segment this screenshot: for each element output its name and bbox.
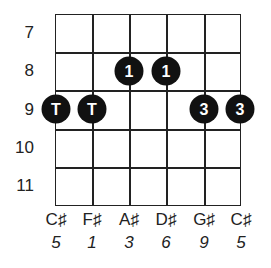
string-note: A♯ [114, 210, 144, 230]
fret-line [55, 129, 241, 131]
string-interval: 6 [151, 233, 181, 253]
string-note: D♯ [151, 210, 181, 230]
string-interval: 5 [41, 233, 71, 253]
string-interval: 9 [189, 233, 219, 253]
string-interval: 3 [114, 233, 144, 253]
string-line [129, 14, 131, 206]
finger-dot: 1 [152, 57, 181, 86]
finger-dot: T [42, 95, 71, 124]
string-line [166, 14, 168, 206]
string-note: C♯ [41, 210, 71, 230]
finger-dot: 3 [190, 95, 219, 124]
fret-number: 8 [4, 61, 34, 81]
chord-diagram: 7 8 9 10 11 1 1 T T 3 3 C♯ F♯ A♯ D♯ G♯ C… [0, 0, 271, 268]
string-interval: 5 [226, 233, 256, 253]
string-note: C♯ [226, 210, 256, 230]
string-note: G♯ [189, 210, 219, 230]
fret-number: 10 [4, 138, 34, 158]
fret-line [55, 90, 241, 92]
string-note: F♯ [77, 210, 107, 230]
finger-dot: 3 [226, 95, 255, 124]
finger-dot: T [78, 95, 107, 124]
string-interval: 1 [77, 233, 107, 253]
finger-dot: 1 [115, 57, 144, 86]
fret-number: 11 [4, 176, 34, 196]
fret-line [55, 167, 241, 169]
fret-line [55, 52, 241, 54]
fret-number: 7 [4, 23, 34, 43]
fret-number: 9 [4, 100, 34, 120]
